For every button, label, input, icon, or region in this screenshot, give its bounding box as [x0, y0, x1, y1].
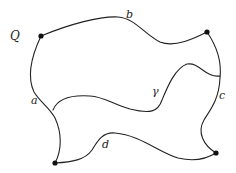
curve-gamma — [53, 64, 220, 112]
label-b: b — [126, 8, 133, 21]
edge-d — [55, 133, 216, 163]
edge-b — [41, 17, 207, 44]
edge-c — [201, 32, 220, 153]
label-gamma: γ — [152, 85, 159, 98]
vertex-top-right — [204, 29, 209, 34]
label-a: a — [31, 94, 38, 107]
label-d: d — [102, 138, 109, 151]
vertex-bottom-right — [213, 150, 218, 155]
label-q: Q — [10, 29, 20, 43]
region-diagram: Q b a γ c d — [0, 0, 236, 173]
label-c: c — [219, 89, 225, 102]
vertex-q — [38, 33, 43, 38]
vertex-bottom-left — [52, 160, 57, 165]
